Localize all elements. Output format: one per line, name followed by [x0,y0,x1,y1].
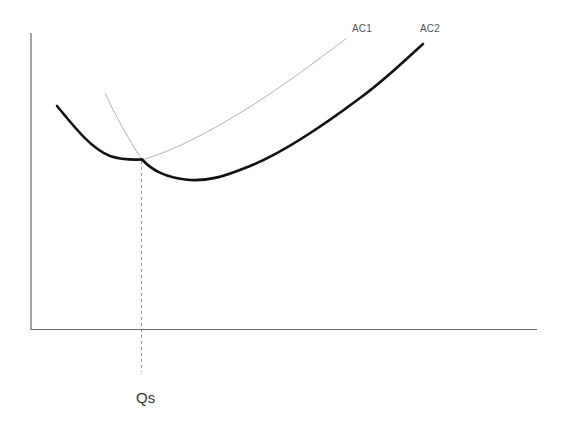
ac1-curve [142,38,347,160]
cost-curves-diagram [0,0,562,421]
ac1-bold-segment [57,106,142,160]
ac2-bold-segment [142,44,423,180]
ac2-curve-left-branch [105,93,142,160]
qs-label: Qs [136,389,155,406]
ac1-label: AC1 [352,23,372,34]
ac2-label: AC2 [420,23,440,34]
